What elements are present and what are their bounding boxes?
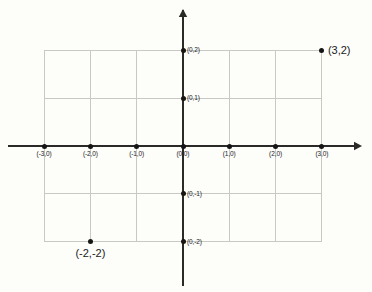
point-label: (0,2) bbox=[187, 47, 200, 54]
data-point bbox=[42, 144, 47, 149]
x-axis-arrowhead-icon bbox=[354, 142, 362, 150]
data-point bbox=[181, 96, 186, 101]
data-point bbox=[227, 144, 232, 149]
point-label: (-1,0) bbox=[129, 151, 144, 158]
point-label: (0,-1) bbox=[187, 191, 202, 198]
point-label: (3,2) bbox=[328, 45, 351, 56]
point-label: (1,0) bbox=[223, 151, 236, 158]
point-label: (2,0) bbox=[269, 151, 282, 158]
point-label: (3,0) bbox=[315, 151, 328, 158]
point-label: (-2,-2) bbox=[75, 248, 105, 259]
point-label: (-3,0) bbox=[37, 151, 52, 158]
point-label: (-2,0) bbox=[83, 151, 98, 158]
axis-arrowheads bbox=[179, 9, 362, 150]
coordinate-plane bbox=[0, 0, 372, 292]
point-label: (0,0) bbox=[177, 151, 190, 158]
data-point bbox=[88, 144, 93, 149]
data-point bbox=[181, 191, 186, 196]
data-point bbox=[88, 239, 93, 244]
data-point bbox=[319, 144, 324, 149]
data-point bbox=[273, 144, 278, 149]
data-point bbox=[181, 48, 186, 53]
data-point bbox=[181, 144, 186, 149]
point-label: (0,1) bbox=[187, 95, 200, 102]
point-label: (0,-2) bbox=[187, 239, 202, 246]
data-point bbox=[181, 239, 186, 244]
data-point bbox=[134, 144, 139, 149]
y-axis-arrowhead-icon bbox=[179, 9, 187, 17]
